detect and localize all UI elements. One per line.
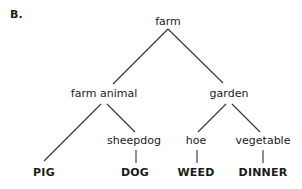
edge-farm-animal-pig — [44, 104, 101, 161]
edge-farm-garden — [168, 29, 223, 83]
node-root: farm — [155, 16, 181, 28]
node-garden: garden — [210, 88, 249, 100]
node-sheepdog: sheepdog — [107, 135, 161, 147]
leaf-dog: DOG — [121, 167, 149, 179]
edge-garden-vegetable — [232, 104, 260, 132]
tree-edges — [0, 0, 302, 189]
leaf-weed: WEED — [177, 167, 214, 179]
leaf-dinner: DINNER — [239, 167, 288, 179]
edge-farm-animal-sheepdog — [107, 104, 135, 132]
leaf-pig: PIG — [33, 167, 55, 179]
node-farm-animal: farm animal — [71, 88, 137, 100]
node-vegetable: vegetable — [236, 135, 291, 147]
edge-farm-farm-animal — [113, 29, 168, 84]
edge-garden-hoe — [198, 104, 226, 132]
node-hoe: hoe — [186, 135, 206, 147]
